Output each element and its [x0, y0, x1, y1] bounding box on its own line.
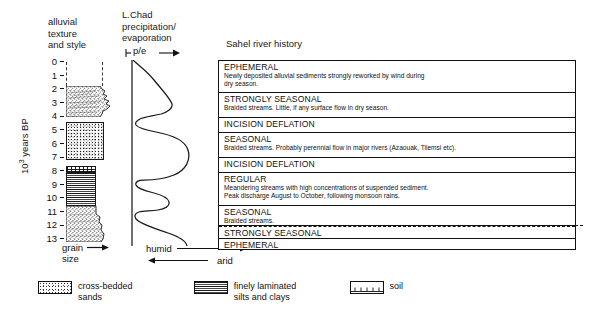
litho-unit-lower-shape [66, 206, 110, 242]
y-axis-tick: 7 [38, 152, 64, 162]
table-row: INCISION DEFLATION [219, 118, 575, 133]
pe-axis-arrow: p/e [125, 45, 195, 57]
river-regime-title: STRONGLY SEASONAL [224, 94, 575, 104]
lithology-header-line-2: texture [48, 28, 114, 40]
river-regime-title: EPHEMERAL [224, 62, 575, 72]
lithology-column-header: alluvial texture and style [48, 16, 114, 51]
y-axis-tick: 5 [38, 125, 64, 135]
pe-header-line-1: L.Chad [122, 9, 218, 21]
y-axis-tick-mark [60, 116, 64, 117]
litho-dashed-right [102, 62, 103, 86]
table-row: EPHEMERALNewly deposited alluvial sedime… [219, 61, 575, 93]
y-axis-tick: 10 [38, 193, 64, 203]
table-row: STRONGLY SEASONAL [219, 226, 575, 239]
sahel-table-dashed-divider-extension [218, 225, 583, 226]
table-row: INCISION DEFLATION [219, 158, 575, 173]
arid-label: arid [217, 255, 233, 266]
legend-label-silts-clays-line-1: finely laminated [234, 281, 297, 292]
y-axis-tick-label: 2 [52, 84, 57, 94]
y-axis-label: 103 years BP [18, 86, 30, 206]
legend-label-cross-bedded-sands-line-1: cross-bedded [78, 281, 133, 292]
litho-unit-laminated-silts-clays [66, 172, 96, 206]
pe-axis-label: p/e [132, 45, 147, 56]
y-axis-tick-mark [60, 88, 64, 89]
y-axis-tick-mark [60, 61, 64, 62]
table-row: SEASONALBraided streams. [219, 206, 575, 226]
y-axis-tick: 11 [38, 207, 64, 217]
y-axis-tick-label: 3 [52, 98, 57, 108]
legend-item-finely-laminated-silts-clays: finely laminated silts and clays [194, 281, 322, 302]
legend-swatch-finely-laminated-silts-clays [194, 281, 228, 294]
sahel-river-history-table: EPHEMERALNewly deposited alluvial sedime… [218, 60, 576, 250]
y-axis-tick: 4 [38, 111, 64, 121]
litho-unit-upper-shape [66, 86, 116, 117]
river-regime-title: INCISION DEFLATION [224, 159, 575, 169]
river-regime-description: Meandering streams with high concentrati… [224, 184, 575, 192]
legend: cross-bedded sands finely laminated silt… [38, 281, 438, 302]
y-axis-tick-label: 5 [52, 125, 57, 135]
y-axis-tick-mark [60, 102, 64, 103]
y-axis-tick-label: 1 [52, 71, 57, 81]
y-axis-tick-label: 12 [46, 220, 57, 230]
y-axis-tick-label: 0 [52, 57, 57, 67]
litho-unit-cross-bedded-sands-middle [66, 122, 104, 160]
river-regime-description: Newly deposited alluvial sediments stron… [224, 72, 575, 80]
legend-item-cross-bedded-sands: cross-bedded sands [38, 281, 166, 302]
y-axis-label-exponent: 3 [18, 159, 25, 163]
y-axis-tick-label: 8 [52, 166, 57, 176]
grain-arrow-right-icon [87, 243, 111, 252]
river-regime-description: Braided streams. Little, if any surface … [224, 104, 575, 112]
y-axis-tick: 3 [38, 98, 64, 108]
river-regime-title: INCISION DEFLATION [224, 119, 575, 129]
river-regime-title: REGULAR [224, 174, 575, 184]
y-axis-tick-label: 13 [46, 234, 57, 244]
y-axis-tick-label: 6 [52, 139, 57, 149]
river-regime-description: Braided streams. Probably perennial flow… [224, 144, 575, 152]
river-regime-description: dry season. [224, 80, 575, 88]
legend-swatch-cross-bedded-sands [38, 281, 72, 294]
pe-header-line-2: precipitation/ [122, 21, 218, 33]
y-axis-tick-mark [60, 225, 64, 226]
y-axis-tick: 8 [38, 166, 64, 176]
litho-unit-cross-bedded-sands-lower [66, 206, 110, 242]
table-row: EPHEMERAL [219, 239, 575, 251]
y-axis-tick: 12 [38, 220, 64, 230]
precipitation-evaporation-curve [128, 60, 214, 246]
y-axis-tick-mark [60, 211, 64, 212]
y-axis-tick-label: 7 [52, 152, 57, 162]
soil-pattern-icon [351, 285, 383, 294]
y-axis-tick-mark [60, 170, 64, 171]
y-axis-label-prefix: 10 [19, 163, 30, 174]
river-regime-description: Peak discharge August to October, follow… [224, 192, 575, 200]
y-axis-tick-label: 4 [52, 111, 57, 121]
y-axis-ticks: 012345678910111213 [38, 58, 64, 248]
precipitation-column-header: L.Chad precipitation/ evaporation [122, 9, 218, 44]
y-axis-tick-label: 9 [52, 180, 57, 190]
legend-label-silts-clays-line-2: silts and clays [234, 292, 297, 303]
legend-label-cross-bedded-sands-line-2: sands [78, 292, 133, 303]
river-regime-title: STRONGLY SEASONAL [224, 228, 575, 238]
arid-arrow-left-icon [146, 256, 212, 265]
grain-axis-label-line-1: grain [62, 242, 83, 253]
y-axis-tick-mark [60, 157, 64, 158]
y-axis-tick-mark [60, 184, 64, 185]
y-axis-tick-label: 11 [47, 207, 57, 217]
y-axis-tick-mark [60, 143, 64, 144]
litho-dashed-left [66, 62, 67, 86]
y-axis-tick: 1 [38, 71, 64, 81]
river-regime-title: EPHEMERAL [224, 240, 575, 250]
y-axis-tick: 9 [38, 180, 64, 190]
y-axis-label-suffix: years BP [19, 118, 30, 159]
lithology-header-line-3: and style [48, 39, 114, 51]
lithology-header-line-1: alluvial [48, 16, 114, 28]
y-axis-tick-mark [60, 75, 64, 76]
table-row: STRONGLY SEASONALBraided streams. Little… [219, 93, 575, 118]
pe-header-line-3: evaporation [122, 32, 218, 44]
litho-unit-cross-bedded-sands-upper [66, 86, 116, 117]
grain-axis-label-line-2: size [62, 253, 146, 264]
table-row: REGULARMeandering streams with high conc… [219, 173, 575, 206]
pe-curve-svg [128, 60, 214, 246]
y-axis-tick: 6 [38, 139, 64, 149]
legend-swatch-soil [350, 281, 384, 294]
lithology-log [66, 60, 126, 242]
